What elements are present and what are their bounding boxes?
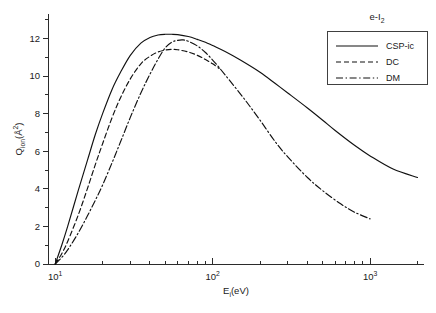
curve-dc — [55, 49, 219, 264]
curve-dm — [55, 40, 370, 264]
y-tick-label: 4 — [35, 183, 40, 194]
y-tick-label: 2 — [35, 221, 40, 232]
y-tick-label: 0 — [35, 258, 40, 269]
legend-box — [328, 32, 428, 85]
y-tick-label: 10 — [29, 70, 40, 81]
ionization-cross-section-figure: 024681012 101102103 Ei(eV) Qion(Å2) e-I2… — [0, 0, 436, 313]
x-axis-label: Ei(eV) — [223, 285, 249, 298]
y-tick-label: 6 — [35, 146, 40, 157]
y-tick-label: 8 — [35, 108, 40, 119]
x-tick-label: 101 — [48, 270, 63, 282]
legend-label-dm: DM — [386, 73, 400, 83]
legend: e-I2 CSP-icDCDM — [328, 11, 428, 85]
plot-canvas: 024681012 101102103 Ei(eV) Qion(Å2) e-I2… — [0, 0, 436, 313]
x-tick-label: 102 — [205, 270, 220, 282]
x-tick-label: 103 — [363, 270, 378, 282]
y-tick-label: 12 — [29, 33, 40, 44]
legend-label-csp-ic: CSP-ic — [386, 41, 415, 51]
y-axis-label: Qion(Å2) — [12, 123, 26, 156]
x-axis-ticks: 101102103 — [48, 258, 417, 282]
y-axis-ticks: 024681012 — [29, 20, 48, 270]
legend-label-dc: DC — [386, 57, 399, 67]
system-label: e-I2 — [370, 11, 385, 24]
